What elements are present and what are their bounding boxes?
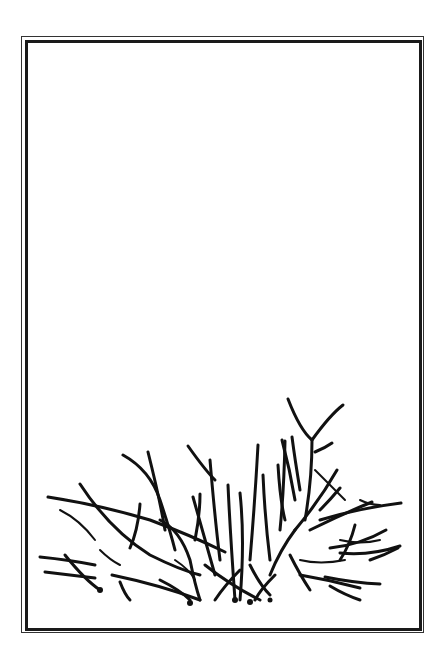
- bare-shrub-illustration: [0, 0, 443, 668]
